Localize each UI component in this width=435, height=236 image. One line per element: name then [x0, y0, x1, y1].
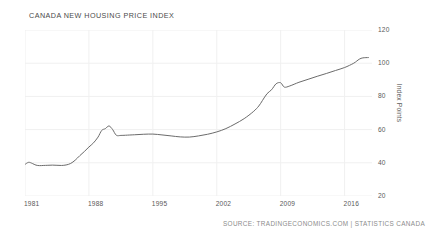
source-note: SOURCE: TRADINGECONOMICS.COM | STATISTIC… — [223, 220, 425, 227]
x-axis-tick-2002: 2002 — [216, 200, 231, 207]
chart-container: CANADA NEW HOUSING PRICE INDEX 120100806… — [0, 0, 435, 236]
y-axis-tick-100: 100 — [378, 59, 390, 66]
y-axis-tick-40: 40 — [378, 159, 386, 166]
y-axis-tick-80: 80 — [378, 92, 386, 99]
x-axis-tick-1981: 1981 — [24, 200, 39, 207]
plot-svg — [25, 30, 372, 196]
x-axis-tick-1995: 1995 — [152, 200, 167, 207]
series-line-new-housing-price-index — [25, 58, 368, 166]
y-axis-tick-20: 20 — [378, 192, 386, 199]
x-axis-tick-2016: 2016 — [344, 200, 359, 207]
grid-lines — [25, 30, 372, 196]
x-axis-tick-2009: 2009 — [280, 200, 295, 207]
plot-area — [25, 30, 372, 196]
y-axis-title: Index Points — [396, 84, 403, 123]
x-axis-tick-1988: 1988 — [88, 200, 103, 207]
y-axis-tick-60: 60 — [378, 126, 386, 133]
y-axis-tick-120: 120 — [378, 26, 390, 33]
chart-title: CANADA NEW HOUSING PRICE INDEX — [29, 11, 174, 20]
